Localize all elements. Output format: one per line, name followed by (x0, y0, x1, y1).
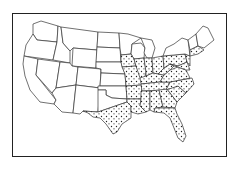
western-states (23, 21, 127, 114)
us-map (0, 0, 240, 170)
